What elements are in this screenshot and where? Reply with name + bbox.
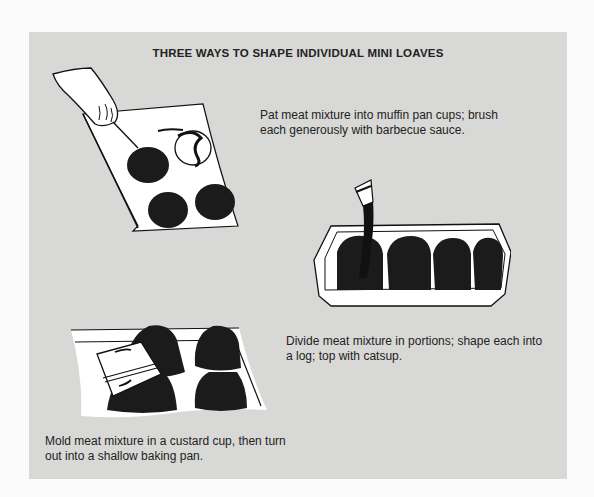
custard-cup-unmolding-onto-pan-icon xyxy=(69,316,269,436)
brush-topping-logs-in-baking-dish-icon xyxy=(311,174,511,319)
page-title: THREE WAYS TO SHAPE INDIVIDUAL MINI LOAV… xyxy=(29,47,567,59)
method-2-caption: Divide meat mixture in portions; shape e… xyxy=(286,334,542,364)
method-3-caption: Mold meat mixture in a custard cup, then… xyxy=(45,434,286,464)
hand-pressing-meat-into-muffin-pan-icon xyxy=(43,66,253,236)
instruction-panel: THREE WAYS TO SHAPE INDIVIDUAL MINI LOAV… xyxy=(29,32,567,479)
method-1-caption: Pat meat mixture into muffin pan cups; b… xyxy=(260,108,498,138)
